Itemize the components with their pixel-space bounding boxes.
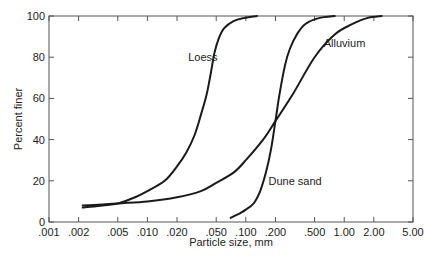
x-tick-label: .002 (68, 226, 89, 238)
x-tick-label: .500 (304, 226, 325, 238)
y-tick-label: 0 (39, 216, 45, 228)
curve-loess (83, 16, 257, 208)
y-tick-label: 100 (27, 10, 45, 22)
x-tick-label: 5.00 (402, 226, 423, 238)
x-tick-label: .020 (166, 226, 187, 238)
curve-dune-sand (231, 16, 335, 218)
x-tick-label: .010 (137, 226, 158, 238)
x-axis-label: Particle size, mm (189, 236, 273, 248)
y-tick-label: 80 (33, 51, 45, 63)
series-label-loess: Loess (188, 51, 218, 63)
x-tick-label: .005 (107, 226, 128, 238)
series-label-alluvium: Alluvium (324, 37, 366, 49)
y-tick-label: 40 (33, 134, 45, 146)
y-tick-label: 20 (33, 175, 45, 187)
x-tick-label: 2.00 (363, 226, 384, 238)
series-label-dune-sand: Dune sand (268, 175, 321, 187)
y-tick-label: 60 (33, 92, 45, 104)
x-tick-label: 1.00 (334, 226, 355, 238)
grain-size-distribution-chart: .001.002.005.010.020.050.100.200.5001.00… (0, 0, 433, 261)
y-axis-label: Percent finer (12, 87, 24, 150)
